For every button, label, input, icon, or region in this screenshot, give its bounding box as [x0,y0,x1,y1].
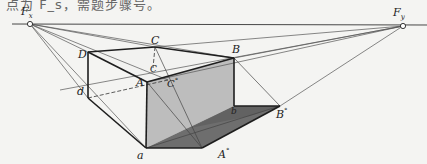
label-a-deg-letter: A [218,148,226,161]
label-b-degree: B° [276,108,288,120]
perspective-diagram [0,0,427,164]
label-fy-sub: y [401,13,405,21]
label-fy: Fy [393,7,405,21]
label-c-degree: C° [167,78,178,89]
label-a-degree: A° [218,148,229,160]
label-a-lower: a [137,150,144,161]
label-c-deg-letter: C [167,78,175,89]
label-fx: Fx [21,6,33,20]
label-b-lower: b [231,107,237,116]
label-c-top: C [151,35,159,46]
label-b-upper: B [232,44,240,55]
degree-mark: ° [175,77,179,85]
degree-mark: ° [284,107,288,115]
label-c-mid: C [150,65,157,74]
degree-mark: ° [226,147,230,155]
label-b-deg-letter: B [276,108,284,121]
label-d-lower: d [77,86,84,97]
vanishing-point-fy [400,23,405,28]
label-fx-sub: x [29,12,33,20]
horizon-line [12,24,427,25]
label-fx-letter: F [21,5,29,18]
label-d-upper: D [78,49,87,60]
vanishing-point-fx [27,21,32,26]
label-fy-letter: F [393,6,401,19]
label-a-upper: A [136,77,144,88]
